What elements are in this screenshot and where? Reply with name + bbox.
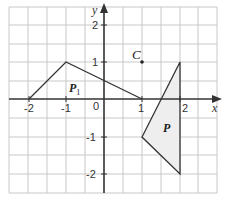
point-c-label: C bbox=[132, 47, 141, 62]
y-tick-label: 2 bbox=[92, 19, 98, 31]
y-tick-label: -2 bbox=[86, 168, 96, 180]
point-c-marker bbox=[140, 60, 144, 64]
origin-label: 0 bbox=[93, 100, 99, 112]
x-axis-label: x bbox=[211, 101, 218, 115]
x-tick-label: -2 bbox=[24, 102, 34, 114]
x-tick-label: 2 bbox=[182, 102, 188, 114]
y-axis-arrow-icon bbox=[100, 3, 108, 13]
y-tick-label: 1 bbox=[92, 56, 98, 68]
coordinate-diagram: -2 -1 1 2 0 2 1 -1 -2 x y C P1 P bbox=[0, 0, 225, 199]
grid-lines bbox=[9, 7, 217, 193]
x-tick-label: -1 bbox=[61, 102, 71, 114]
shape-p1-label: P1 bbox=[69, 81, 80, 97]
shape-p-label: P bbox=[163, 121, 171, 135]
x-tick-label: 1 bbox=[138, 102, 144, 114]
y-tick-label: -1 bbox=[86, 131, 96, 143]
y-axis-label: y bbox=[91, 3, 98, 17]
